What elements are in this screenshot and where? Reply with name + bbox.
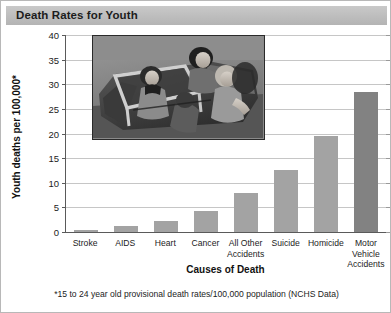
y-axis-tick-right [386, 158, 390, 159]
bar-cancer[interactable] [194, 211, 219, 232]
y-axis-tick-label: 5 [54, 202, 59, 213]
convertible-car-photo [92, 35, 265, 140]
y-axis-tick-label: 20 [48, 128, 59, 139]
bar-all-other-accidents[interactable] [234, 193, 259, 232]
y-axis-tick-label: 25 [48, 103, 59, 114]
y-axis-tick-right [386, 232, 390, 233]
y-axis-tick-label: 30 [48, 79, 59, 90]
y-axis-tick-label: 15 [48, 153, 59, 164]
page-title: Death Rates for Youth [16, 9, 138, 21]
y-axis-tick-right [386, 84, 390, 85]
bar-aids[interactable] [114, 226, 139, 232]
photo-image [93, 36, 263, 138]
bar-slot [346, 35, 386, 232]
y-axis-tick-right [386, 35, 390, 36]
bar-heart[interactable] [154, 221, 179, 232]
chart-figure: Death Rates for Youth Youth deaths per 1… [0, 0, 391, 313]
chart-footnote: *15 to 24 year old provisional death rat… [6, 289, 387, 299]
x-axis-title: Causes of Death [65, 264, 386, 275]
y-axis-tick-right [386, 134, 390, 135]
y-axis-tick-label: 0 [54, 227, 59, 238]
y-axis-tick-label: 10 [48, 177, 59, 188]
y-axis-tick-right [386, 109, 390, 110]
y-axis-tick [62, 232, 66, 233]
bar-suicide[interactable] [274, 170, 299, 232]
chart-title-band: Death Rates for Youth [6, 6, 387, 25]
y-axis-tick-right [386, 60, 390, 61]
y-axis-tick-label: 40 [48, 30, 59, 41]
bar-motor-vehicle-accidents[interactable] [354, 92, 379, 232]
y-axis-title: Youth deaths per 100,000* [11, 75, 22, 199]
y-axis-tick-label: 35 [48, 54, 59, 65]
bar-slot [266, 35, 306, 232]
bar-slot [306, 35, 346, 232]
bar-stroke[interactable] [74, 230, 99, 232]
bar-homicide[interactable] [314, 136, 339, 232]
y-axis-tick-right [386, 207, 390, 208]
y-axis-tick-right [386, 183, 390, 184]
